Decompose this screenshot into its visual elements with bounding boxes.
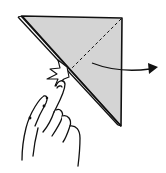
diagram-canvas: [0, 0, 166, 173]
origami-diagram: Hand pinches folded triangle; dashed dia…: [0, 0, 166, 173]
hand-icon: [22, 81, 80, 166]
